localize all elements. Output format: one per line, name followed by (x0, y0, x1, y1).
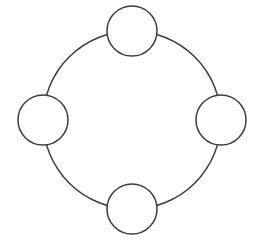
diagram-canvas (0, 0, 257, 248)
node-circle-left[interactable] (18, 95, 68, 145)
ring-topology-svg (0, 0, 257, 248)
node-circle-top[interactable] (107, 6, 157, 56)
node-circle-right[interactable] (196, 95, 246, 145)
ring-backbone-circle (43, 31, 221, 209)
node-circle-bottom[interactable] (107, 184, 157, 234)
